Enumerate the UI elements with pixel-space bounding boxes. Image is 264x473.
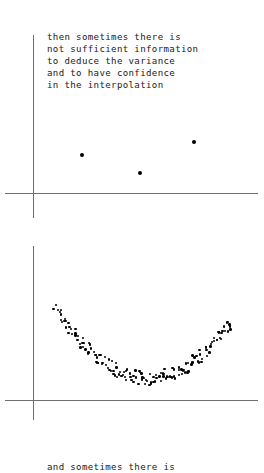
- data-point: [181, 373, 183, 375]
- data-point: [132, 381, 134, 383]
- data-point: [82, 346, 84, 348]
- data-point: [98, 354, 100, 356]
- data-point: [93, 351, 95, 353]
- data-point: [198, 349, 200, 351]
- data-point: [99, 354, 101, 356]
- data-point: [200, 361, 202, 363]
- data-point: [198, 361, 200, 363]
- data-point: [150, 381, 152, 383]
- data-point: [160, 380, 162, 382]
- data-point: [138, 171, 142, 175]
- data-point: [108, 369, 110, 371]
- data-point: [155, 377, 157, 379]
- data-point: [219, 337, 221, 339]
- data-point: [169, 375, 171, 377]
- data-point: [209, 345, 211, 347]
- data-point: [129, 376, 131, 378]
- data-point: [94, 354, 96, 356]
- data-point: [187, 370, 189, 372]
- data-point: [180, 368, 182, 370]
- data-point: [88, 342, 90, 344]
- data-point: [101, 363, 103, 365]
- data-point: [122, 374, 124, 376]
- data-point: [148, 384, 150, 386]
- data-point: [178, 369, 180, 371]
- data-point: [74, 332, 76, 334]
- data-point: [173, 368, 175, 370]
- data-point: [107, 367, 109, 369]
- data-point: [130, 379, 132, 381]
- data-point: [134, 369, 136, 371]
- data-point: [115, 366, 117, 368]
- data-point: [64, 320, 66, 322]
- data-point: [158, 375, 160, 377]
- data-point: [186, 371, 188, 373]
- data-point: [82, 337, 84, 339]
- data-point: [201, 358, 203, 360]
- data-point: [205, 346, 207, 348]
- data-point: [108, 358, 110, 360]
- data-point: [191, 361, 193, 363]
- dense-data-panel: and sometimes there is: [0, 220, 264, 438]
- data-point: [90, 347, 92, 349]
- data-point: [83, 342, 85, 344]
- data-point: [166, 376, 168, 378]
- data-point: [144, 383, 146, 385]
- data-point: [60, 309, 62, 311]
- data-point: [178, 366, 180, 368]
- data-point: [191, 363, 193, 365]
- data-point: [184, 371, 186, 373]
- data-point: [206, 355, 208, 357]
- y-axis-top-panel: [33, 35, 34, 218]
- data-point: [60, 313, 62, 315]
- data-point: [80, 153, 84, 157]
- data-point: [163, 368, 165, 370]
- data-point: [160, 372, 162, 374]
- data-point: [126, 368, 128, 370]
- data-point: [110, 370, 112, 372]
- data-point: [74, 334, 76, 336]
- data-point: [197, 360, 199, 362]
- caption-sparse-data: then sometimes there is not sufficient i…: [47, 31, 198, 91]
- data-point: [199, 353, 201, 355]
- data-point: [220, 332, 222, 334]
- data-point: [89, 343, 91, 345]
- data-point: [79, 343, 81, 345]
- caption-dense-data: and sometimes there is: [47, 461, 175, 473]
- data-point: [208, 351, 210, 353]
- data-point: [120, 375, 122, 377]
- x-axis-top-panel: [5, 193, 258, 194]
- data-point: [193, 356, 195, 358]
- data-point: [213, 337, 215, 339]
- data-point: [162, 372, 164, 374]
- y-axis-bottom-panel: [33, 246, 34, 420]
- data-point: [115, 362, 117, 364]
- data-point: [166, 375, 168, 377]
- data-point: [70, 328, 72, 330]
- data-point: [171, 376, 173, 378]
- data-point: [76, 339, 78, 341]
- data-point: [174, 377, 176, 379]
- data-point: [220, 338, 222, 340]
- data-point: [96, 356, 98, 358]
- data-point: [171, 367, 173, 369]
- data-point: [155, 374, 157, 376]
- data-point: [68, 326, 70, 328]
- data-point: [125, 379, 127, 381]
- data-point: [195, 355, 197, 357]
- data-point: [59, 311, 61, 313]
- data-point: [150, 382, 152, 384]
- data-point: [135, 376, 137, 378]
- data-point: [101, 362, 103, 364]
- data-point: [112, 373, 114, 375]
- data-point: [162, 373, 164, 375]
- data-point: [129, 372, 131, 374]
- data-point: [60, 319, 62, 321]
- data-point: [178, 374, 180, 376]
- scatter-plot-dense: [0, 220, 264, 440]
- data-point: [205, 349, 207, 351]
- data-point: [125, 370, 127, 372]
- data-point: [67, 322, 69, 324]
- data-point: [132, 375, 134, 377]
- data-point: [112, 370, 114, 372]
